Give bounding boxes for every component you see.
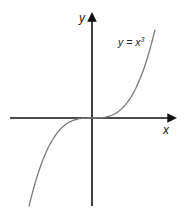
x-axis-label: x bbox=[162, 123, 170, 137]
cubic-function-plot: y x y = x3 bbox=[0, 0, 187, 221]
equation-lhs: y = x bbox=[117, 36, 141, 48]
y-axis-label: y bbox=[78, 11, 86, 25]
curve-equation-label: y = x3 bbox=[117, 36, 144, 48]
equation-exponent: 3 bbox=[140, 36, 144, 43]
